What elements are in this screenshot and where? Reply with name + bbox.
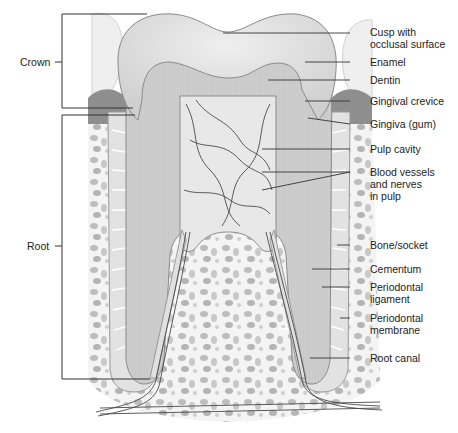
label-gingival-crevice: Gingival crevice xyxy=(370,95,444,107)
label-root-canal: Root canal xyxy=(370,352,420,364)
label-periodontal-membrane: Periodontal membrane xyxy=(370,312,423,336)
label-pulp-cavity: Pulp cavity xyxy=(370,143,421,155)
label-enamel: Enamel xyxy=(370,56,406,68)
label-bone-socket: Bone/socket xyxy=(370,239,428,251)
label-blood-vessels: Blood vessels and nerves in pulp xyxy=(370,166,435,202)
label-cusp: Cusp with occlusal surface xyxy=(370,26,445,50)
label-cementum: Cementum xyxy=(370,263,421,275)
label-dentin: Dentin xyxy=(370,74,400,86)
root-label: Root xyxy=(27,240,49,252)
label-periodontal-ligament: Periodontal ligament xyxy=(370,281,423,305)
crown-label: Crown xyxy=(20,56,50,68)
label-gingiva: Gingiva (gum) xyxy=(370,118,436,130)
